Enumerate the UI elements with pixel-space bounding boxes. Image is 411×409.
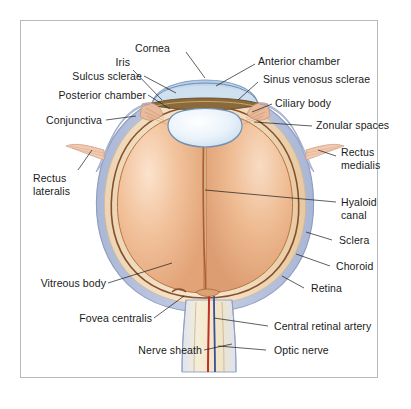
label-retina: Retina [311,282,342,295]
label-central-retinal-artery: Central retinal artery [274,320,371,333]
label-rectus-lateralis-line2: lateralis [33,185,70,198]
label-sinus-venosus-sclerae: Sinus venosus sclerae [263,73,370,86]
label-cornea: Cornea [20,42,170,55]
label-fovea-centralis: Fovea centralis [10,312,152,325]
optic-nerve-region [182,289,236,372]
label-posterior-chamber: Posterior chamber [10,89,146,102]
label-zonular-spaces: Zonular spaces [316,119,389,132]
label-vitreous-body: Vitreous body [10,277,106,290]
eye-anatomy-figure: Cornea Iris Sulcus sclerae Posterior cha… [0,0,411,409]
rectus-lateralis-muscle [66,144,104,160]
label-rectus-medialis-line1: Rectus [341,146,374,159]
label-optic-nerve: Optic nerve [274,344,329,357]
label-ciliary-body: Ciliary body [275,97,331,110]
label-anterior-chamber: Anterior chamber [258,55,340,68]
label-hyaloid-canal-line2: canal [341,209,367,222]
lens-region [168,109,242,148]
label-nerve-sheath: Nerve sheath [60,344,202,357]
label-hyaloid-canal-line1: Hyaloid [341,196,377,209]
label-iris: Iris [20,56,130,69]
label-rectus-medialis-line2: medialis [341,159,380,172]
label-choroid: Choroid [336,260,373,273]
label-conjunctiva: Conjunctiva [10,114,102,127]
label-sulcus-sclerae: Sulcus sclerae [10,70,142,83]
label-rectus-lateralis-line1: Rectus [33,172,66,185]
label-sclera: Sclera [339,234,369,247]
